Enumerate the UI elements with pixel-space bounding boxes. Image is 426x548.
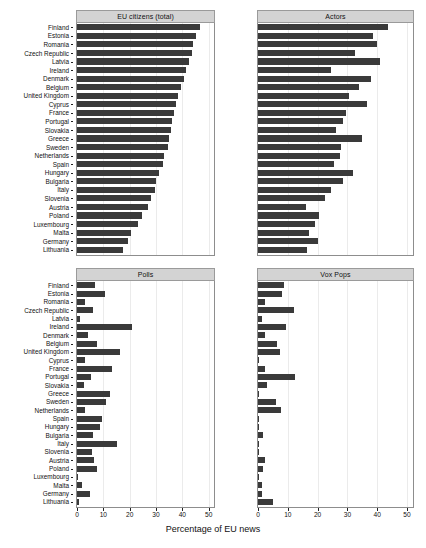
panel-actors: Actors	[257, 10, 414, 256]
bar-united-kingdom	[258, 349, 280, 355]
y-tick-mark	[71, 87, 73, 88]
y-tick-label-estonia: Estonia	[48, 32, 69, 39]
bar-hungary	[258, 170, 353, 176]
bar-row	[77, 93, 214, 99]
bar-luxembourg	[258, 221, 315, 227]
bar-portugal	[258, 374, 295, 380]
y-tick-mark	[71, 452, 73, 453]
bar-estonia	[77, 291, 105, 297]
plot-area-eu-citizens-total	[76, 23, 215, 256]
y-tick-label-belgium: Belgium	[46, 84, 69, 91]
y-tick-label-slovakia: Slovakia	[45, 127, 69, 134]
bar-row	[77, 316, 214, 322]
bar-denmark	[258, 76, 371, 82]
bar-belgium	[77, 84, 181, 90]
bar-series-vox-pops	[258, 281, 413, 507]
bar-netherlands	[258, 153, 340, 159]
y-tick-mark	[71, 27, 73, 28]
bar-poland	[77, 212, 142, 218]
bar-row	[77, 118, 214, 124]
bar-row	[258, 153, 413, 159]
y-tick-mark	[71, 164, 73, 165]
y-tick-label-united-kingdom: United Kingdom	[24, 92, 69, 99]
y-tick-label-luxembourg: Luxembourg	[33, 221, 69, 228]
bar-series-polls	[77, 281, 214, 507]
y-tick-label-sweden: Sweden	[46, 144, 69, 151]
bar-row	[258, 299, 413, 305]
y-tick-mark	[71, 241, 73, 242]
y-tick-mark	[71, 419, 73, 420]
bar-row	[258, 374, 413, 380]
bar-czech-republic	[258, 307, 294, 313]
bar-spain	[77, 161, 163, 167]
bar-belgium	[258, 84, 359, 90]
y-tick-label-malta: Malta	[53, 229, 69, 236]
bar-row	[258, 441, 413, 447]
bar-germany	[258, 491, 262, 497]
bar-romania	[258, 299, 265, 305]
bar-czech-republic	[258, 50, 355, 56]
y-tick-label-lithuania: Lithuania	[43, 498, 69, 505]
bar-germany	[77, 491, 90, 497]
y-tick-label-germany: Germany	[43, 490, 69, 497]
y-tick-label-italy: Italy	[57, 440, 69, 447]
bar-row	[77, 474, 214, 480]
y-tick-mark	[71, 130, 73, 131]
x-tick-label-0: 0	[75, 511, 79, 518]
bar-latvia	[77, 58, 189, 64]
y-tick-mark	[71, 104, 73, 105]
y-tick-mark	[71, 181, 73, 182]
bar-cyprus	[77, 357, 85, 363]
bar-denmark	[258, 332, 265, 338]
bar-row	[258, 457, 413, 463]
bar-finland	[77, 24, 200, 30]
bar-row	[258, 24, 413, 30]
bar-finland	[258, 282, 284, 288]
x-axis-left: 01020304050	[76, 508, 215, 524]
bar-row	[258, 349, 413, 355]
bar-row	[77, 391, 214, 397]
y-tick-label-hungary: Hungary	[45, 169, 69, 176]
bar-row	[258, 482, 413, 488]
bar-row	[77, 24, 214, 30]
bar-slovakia	[77, 382, 84, 388]
y-tick-label-netherlands: Netherlands	[35, 152, 69, 159]
y-tick-mark	[71, 427, 73, 428]
bar-italy	[77, 441, 117, 447]
bar-row	[258, 41, 413, 47]
bar-hungary	[77, 170, 159, 176]
bar-row	[258, 341, 413, 347]
y-tick-mark	[71, 250, 73, 251]
bar-austria	[258, 204, 306, 210]
bar-netherlands	[77, 153, 164, 159]
y-tick-mark	[71, 294, 73, 295]
panel-title-polls: Polls	[76, 268, 215, 281]
bar-malta	[77, 482, 82, 488]
bar-row	[258, 93, 413, 99]
y-tick-mark	[71, 369, 73, 370]
y-tick-label-ireland: Ireland	[49, 323, 69, 330]
bar-slovenia	[258, 195, 325, 201]
y-tick-label-poland: Poland	[49, 212, 69, 219]
bar-row	[77, 230, 214, 236]
bar-sweden	[77, 399, 106, 405]
bar-row	[258, 127, 413, 133]
y-tick-mark	[71, 53, 73, 54]
bar-row	[258, 424, 413, 430]
bar-lithuania	[258, 499, 273, 505]
bar-row	[258, 33, 413, 39]
bar-row	[77, 238, 214, 244]
bar-ireland	[258, 67, 331, 73]
bar-row	[77, 324, 214, 330]
bar-slovenia	[77, 449, 92, 455]
y-tick-label-denmark: Denmark	[43, 75, 69, 82]
y-tick-label-greece: Greece	[48, 390, 69, 397]
x-axis-right: 01020304050	[257, 508, 414, 524]
bar-row	[77, 84, 214, 90]
bar-row	[258, 212, 413, 218]
y-tick-label-romania: Romania	[43, 298, 69, 305]
bar-row	[77, 366, 214, 372]
y-tick-label-finland: Finland	[48, 282, 69, 289]
x-tick-label-0: 0	[256, 511, 260, 518]
y-tick-mark	[71, 79, 73, 80]
